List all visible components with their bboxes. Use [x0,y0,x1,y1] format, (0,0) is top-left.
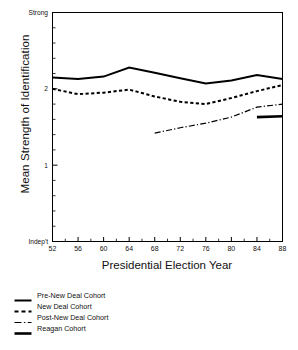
x-tick-label: 76 [196,245,216,253]
x-tick-label: 72 [170,245,190,253]
thick-solid-line-icon [14,324,32,333]
series-line [257,116,283,117]
data-series-group [53,67,283,133]
legend-item: Pre-New Deal Cohort [14,290,194,301]
legend-item: New Deal Cohort [14,301,194,312]
plot-frame [53,13,283,242]
legend-label: New Deal Cohort [37,302,92,311]
series-line [53,85,283,104]
series-line [155,104,283,133]
x-tick-label: 68 [145,245,165,253]
chart-legend: Pre-New Deal CohortNew Deal CohortPost-N… [14,290,194,334]
y-tick-label: 1 [2,162,48,169]
y-tick-label: Strong [2,9,48,16]
x-tick-label: 80 [221,245,241,253]
y-tick-label: 2 [2,85,48,92]
chart-figure: Mean Strength of Identification Indep't1… [0,0,298,350]
dashed-line-icon [14,302,32,311]
dash-dot-line-icon [14,313,32,322]
y-axis-ticks [53,13,58,242]
series-line [53,67,283,83]
legend-item: Reagan Cohort [14,323,194,334]
legend-item: Post-New Deal Cohort [14,312,194,323]
x-axis-title: Presidential Election Year [52,259,282,271]
legend-label: Reagan Cohort [37,324,86,333]
legend-label: Post-New Deal Cohort [37,313,109,322]
legend-label: Pre-New Deal Cohort [37,291,105,300]
x-tick-label: 64 [119,245,139,253]
solid-line-icon [14,291,32,300]
y-tick-label: Indep't [2,238,48,245]
x-tick-label: 52 [43,245,63,253]
x-tick-label: 88 [273,245,293,253]
x-tick-label: 60 [94,245,114,253]
x-tick-label: 56 [68,245,88,253]
x-axis-ticks [53,237,283,242]
x-tick-label: 84 [247,245,267,253]
